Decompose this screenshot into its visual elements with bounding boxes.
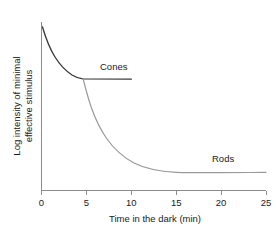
chart-axes bbox=[42, 22, 267, 191]
x-tick-label-10: 10 bbox=[126, 197, 137, 208]
x-tick-label-25: 25 bbox=[261, 197, 272, 208]
y-axis-title-line-2: effective stimulus bbox=[23, 69, 34, 142]
x-tick-label-5: 5 bbox=[84, 197, 89, 208]
y-axis-title-line-1: Log intensity of minimal bbox=[11, 56, 22, 155]
x-axis-title: Time in the dark (min) bbox=[109, 213, 201, 224]
x-axis-tick-marks bbox=[42, 191, 267, 196]
cones-label: Cones bbox=[100, 61, 128, 72]
x-tick-label-20: 20 bbox=[216, 197, 227, 208]
dark-adaptation-chart-figure: 0 5 10 15 20 25 Time in the dark (min) L… bbox=[0, 0, 276, 232]
chart-plot-area: 0 5 10 15 20 25 Time in the dark (min) L… bbox=[0, 0, 276, 232]
rods-label: Rods bbox=[212, 153, 234, 164]
x-tick-label-15: 15 bbox=[171, 197, 182, 208]
rods-curve bbox=[83, 79, 266, 173]
x-tick-label-0: 0 bbox=[39, 197, 44, 208]
